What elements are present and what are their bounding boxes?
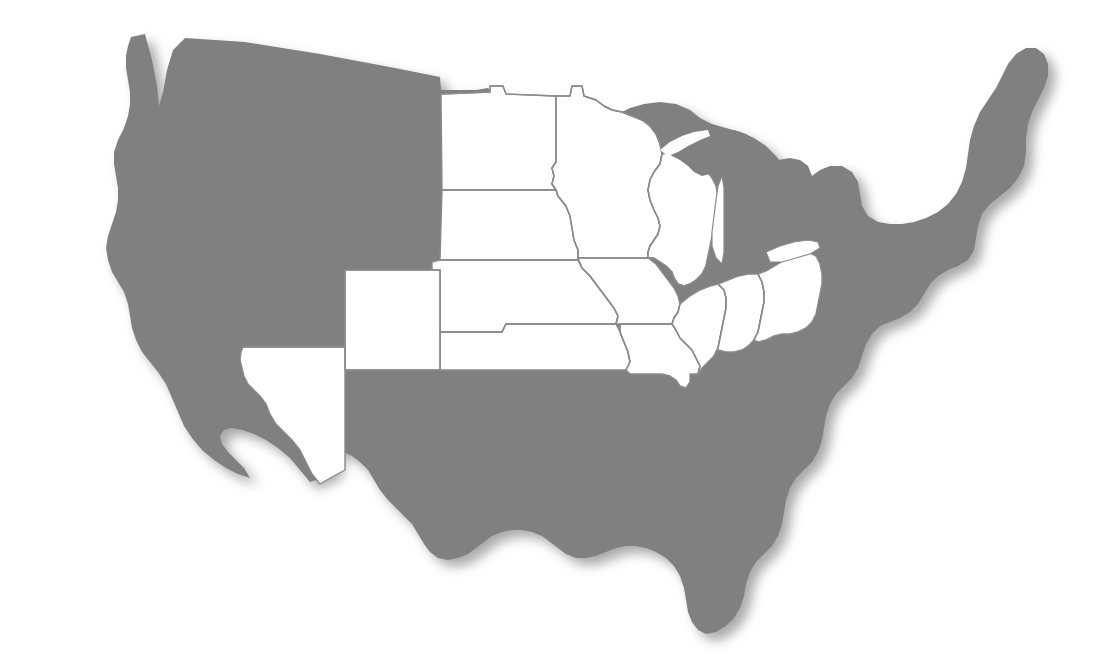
state-colorado[interactable] — [345, 270, 440, 370]
us-map-container — [0, 0, 1105, 669]
state-north-dakota[interactable] — [441, 86, 556, 190]
state-south-dakota[interactable] — [440, 190, 578, 260]
us-map-svg — [0, 0, 1105, 669]
